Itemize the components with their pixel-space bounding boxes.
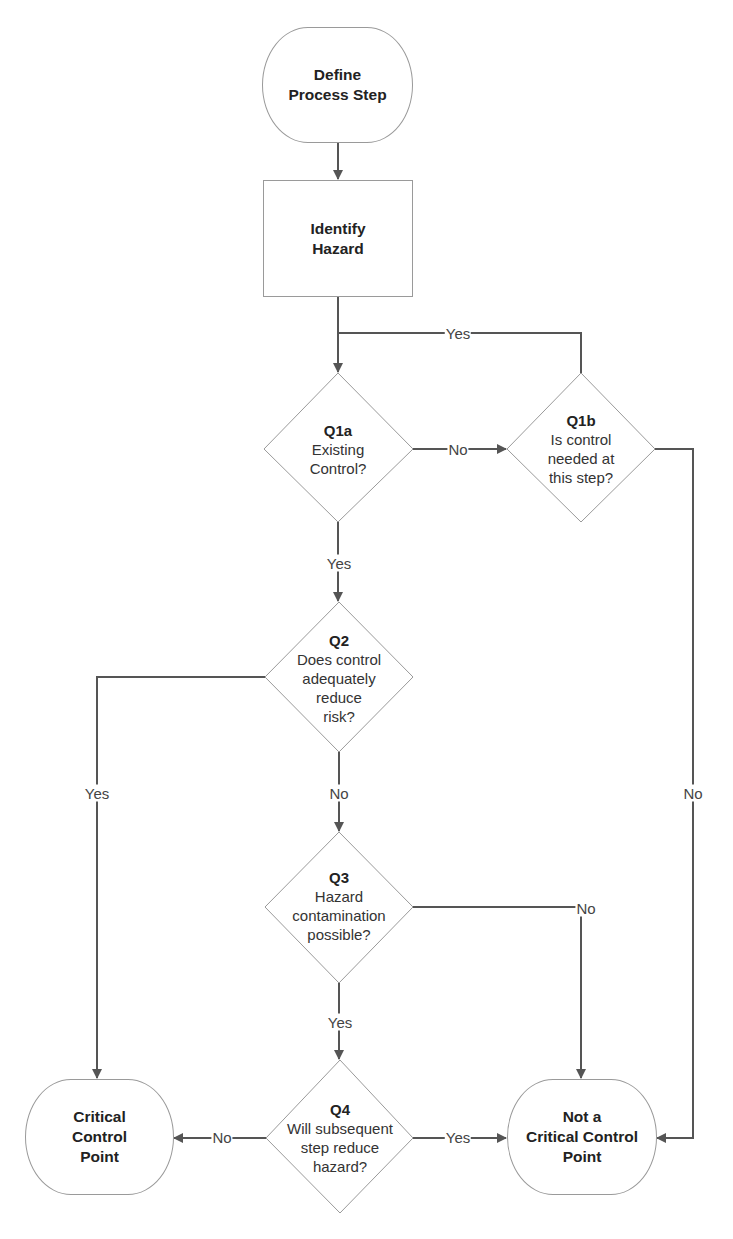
q1b-line3: this step? [521, 468, 641, 487]
q4-line3: hazard? [265, 1157, 415, 1176]
edge-label-q1a-no: No [447, 441, 468, 458]
edge-label-q1b-no: No [682, 785, 703, 802]
edge-label-q3-yes: Yes [327, 1014, 353, 1031]
q2-line2: adequately [274, 669, 404, 688]
q4-id: Q4 [265, 1100, 415, 1119]
q1b-line2: needed at [521, 449, 641, 468]
start-line1: Define [314, 65, 361, 85]
identify-line2: Hazard [312, 239, 364, 259]
edge-label-q2-yes: Yes [84, 785, 110, 802]
ccp-node: Critical Control Point [25, 1079, 174, 1195]
q1a-id: Q1a [278, 421, 398, 440]
not-ccp-node: Not a Critical Control Point [507, 1079, 657, 1195]
edge-label-q3-no: No [575, 900, 596, 917]
q3-id: Q3 [269, 868, 409, 887]
q2-text: Q2 Does control adequately reduce risk? [274, 631, 404, 726]
q1a-text: Q1a Existing Control? [278, 421, 398, 478]
q1a-line2: Control? [278, 459, 398, 478]
identify-line1: Identify [310, 219, 365, 239]
q1b-text: Q1b Is control needed at this step? [521, 411, 641, 487]
edge-label-q1b-yes: Yes [445, 325, 471, 342]
q1a-line1: Existing [278, 440, 398, 459]
q3-line3: possible? [269, 925, 409, 944]
identify-hazard-node: Identify Hazard [263, 180, 413, 297]
start-node: Define Process Step [262, 27, 413, 143]
ccp-line1: Critical [73, 1107, 126, 1127]
q2-line3: reduce [274, 688, 404, 707]
q1b-line1: Is control [521, 430, 641, 449]
q1b-id: Q1b [521, 411, 641, 430]
ccp-line2: Control [72, 1127, 127, 1147]
q3-line1: Hazard [269, 887, 409, 906]
q2-line1: Does control [274, 650, 404, 669]
edge-label-q4-no: No [211, 1129, 232, 1146]
edge-label-q4-yes: Yes [445, 1129, 471, 1146]
q2-id: Q2 [274, 631, 404, 650]
q2-line4: risk? [274, 707, 404, 726]
q3-text: Q3 Hazard contamination possible? [269, 868, 409, 944]
not-ccp-line3: Point [563, 1147, 602, 1167]
edge-label-q2-no: No [328, 785, 349, 802]
q4-line2: step reduce [265, 1138, 415, 1157]
start-line2: Process Step [288, 85, 386, 105]
not-ccp-line1: Not a [563, 1107, 602, 1127]
q4-text: Q4 Will subsequent step reduce hazard? [265, 1100, 415, 1176]
not-ccp-line2: Critical Control [526, 1127, 638, 1147]
ccp-line3: Point [80, 1147, 119, 1167]
q3-line2: contamination [269, 906, 409, 925]
edge-label-q1a-yes: Yes [326, 555, 352, 572]
q4-line1: Will subsequent [265, 1119, 415, 1138]
